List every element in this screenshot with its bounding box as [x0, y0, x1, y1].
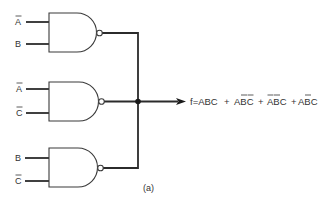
nand-gate-2: A C — [16, 82, 104, 121]
term-2: ABC — [234, 96, 254, 107]
gate-2-inversion-bubble — [99, 99, 105, 105]
nand-gate-3: B C — [15, 148, 103, 187]
term-3: ABC — [267, 96, 287, 107]
term-4: ABC — [298, 96, 318, 107]
nand-gate-1: A B — [15, 13, 102, 52]
circuit-svg: A B A C B C — [0, 0, 329, 208]
gate-1-input-b-label: B — [15, 39, 21, 49]
gate-3-input-b-label: B — [15, 153, 21, 163]
gate-2-input-c-label: C — [16, 108, 23, 118]
gate-1-body — [49, 13, 97, 52]
plus-sign: + — [258, 96, 264, 107]
gate-2-input-a-label: A — [16, 84, 22, 94]
combine-bus — [102, 33, 138, 168]
gate-1-input-a-label: A — [15, 17, 21, 27]
gate-3-input-c-label: C — [15, 176, 22, 186]
plus-sign: + — [291, 96, 297, 107]
logic-diagram: A B A C B C — [0, 0, 329, 208]
gate-1-inversion-bubble — [97, 30, 103, 36]
gate-2-body — [49, 82, 99, 121]
junction-dot — [135, 99, 141, 105]
output-expression: f=ABC + ABC + ABC + ABC — [190, 95, 318, 107]
plus-sign: + — [224, 96, 230, 107]
gate-3-inversion-bubble — [98, 165, 104, 171]
figure-caption: (a) — [143, 183, 154, 193]
gate-3-body — [49, 148, 98, 187]
expression-prefix: f=ABC — [190, 96, 218, 107]
output-wiring — [102, 33, 186, 168]
